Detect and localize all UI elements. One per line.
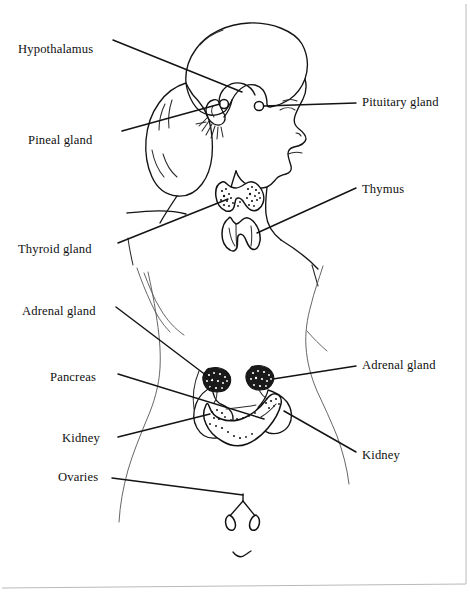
abdomen-torso-group <box>119 266 349 557</box>
anatomy-illustration <box>0 0 470 592</box>
hair-strand-2 <box>169 100 172 128</box>
thyroid-gland-organ <box>216 182 264 212</box>
pituitary-gland-organ <box>254 101 263 110</box>
right-arm-line <box>307 331 327 351</box>
ovary-right-organ <box>250 515 260 530</box>
shoulder-right-line <box>281 240 318 269</box>
leader-thymus <box>257 188 356 233</box>
leader-thyroid-gland <box>118 199 228 243</box>
ovaries-organ <box>226 494 260 530</box>
label-ovaries: Ovaries <box>58 471 98 484</box>
page-border-group <box>2 4 466 588</box>
nostril-mark <box>296 133 301 136</box>
brow-line <box>283 100 297 102</box>
hair-strand-1 <box>159 104 165 130</box>
label-kidney-right: Kidney <box>362 449 400 462</box>
label-thyroid-gland: Thyroid gland <box>18 243 92 256</box>
adrenal-gland-left-organ <box>203 368 231 392</box>
leader-pancreas <box>118 374 264 419</box>
label-hypothalamus: Hypothalamus <box>18 43 93 56</box>
eye-line <box>280 108 295 110</box>
adrenal-gland-right-organ <box>246 366 274 390</box>
hair-strand-3 <box>152 150 164 177</box>
chest-left-line <box>127 211 186 214</box>
ovary-left-organ <box>226 515 236 530</box>
leader-kidney-right <box>284 411 356 452</box>
label-adrenal-gland-left: Adrenal gland <box>22 305 96 318</box>
pineal-gland-organ <box>220 100 229 109</box>
hair-strand-5 <box>200 30 223 45</box>
cranium-outline <box>186 23 308 115</box>
neck-front-line <box>266 187 281 240</box>
page-border-bottom <box>2 584 466 588</box>
torso-right-contour <box>306 266 349 484</box>
adrenal-right-stalk <box>259 390 267 399</box>
leader-ovaries <box>112 478 243 495</box>
lower-midline-mark <box>233 551 251 557</box>
endocrine-system-diagram: Hypothalamus Pituitary gland Pineal glan… <box>0 0 470 592</box>
leader-adrenal-gland-left <box>116 307 211 379</box>
leader-hypothalamus <box>113 40 242 92</box>
label-pituitary-gland: Pituitary gland <box>362 96 439 109</box>
label-thymus: Thymus <box>362 183 404 196</box>
head-profile-group <box>127 23 318 286</box>
label-adrenal-gland-right: Adrenal gland <box>362 359 436 372</box>
torso-upper-left-edge <box>128 238 133 265</box>
face-profile-outline <box>236 79 306 188</box>
label-pineal-gland: Pineal gland <box>28 134 92 147</box>
hair-strand-4 <box>163 154 177 177</box>
label-kidney-left: Kidney <box>62 432 100 445</box>
label-pancreas: Pancreas <box>50 371 96 384</box>
fallopian-tube-right <box>243 501 256 517</box>
hair-bun-outline <box>146 83 213 196</box>
shoulder-left-line <box>160 196 177 223</box>
mouth-line <box>288 152 302 154</box>
leader-adrenal-gland-right <box>273 366 356 379</box>
fallopian-tube-left <box>229 501 243 517</box>
thymus-organ <box>222 217 260 251</box>
hair-wisps <box>196 118 223 139</box>
